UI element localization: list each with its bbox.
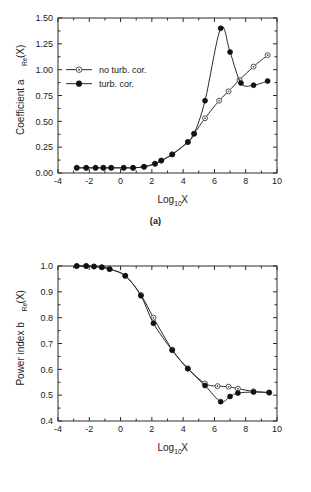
data-point-filled (101, 165, 106, 170)
x-tick-label: 8 (243, 176, 248, 186)
y-tick-label: 1.50 (35, 13, 53, 23)
x-tick-label: 4 (181, 424, 186, 434)
x-tick-label: 10 (272, 424, 282, 434)
series-curve-1 (77, 27, 268, 168)
x-axis-title-tail: X (181, 442, 188, 453)
data-point-filled (84, 264, 89, 269)
legend-open-circle-marker-center (78, 69, 80, 71)
y-tick-label: 0.7 (40, 339, 53, 349)
x-tick-label: 10 (272, 176, 282, 186)
data-point-filled (93, 165, 98, 170)
data-point-open-center (217, 385, 219, 387)
data-point-filled (152, 161, 157, 166)
y-tick-label: 0.25 (35, 142, 53, 152)
series-curve-0 (77, 266, 269, 393)
data-point-open-center (228, 386, 230, 388)
x-tick-label: 8 (243, 424, 248, 434)
plot-frame (58, 18, 277, 173)
data-point-filled (170, 152, 175, 157)
data-point-filled (99, 265, 104, 270)
data-point-filled (131, 165, 136, 170)
data-point-filled (218, 26, 223, 31)
data-point-filled (239, 81, 244, 86)
legend-label: no turb. cor. (99, 65, 147, 75)
panel-b: -4-202468100.40.50.60.70.80.91.0Log10XPo… (0, 246, 311, 492)
x-axis-title: Log (158, 194, 175, 205)
data-point-filled (123, 273, 128, 278)
y-tick-label: 0.4 (40, 416, 53, 426)
y-axis-title-group: Coefficient aRe(X) (15, 45, 28, 135)
y-tick-label: 1.25 (35, 39, 53, 49)
y-axis-title-group: Power index bRe(X) (15, 290, 28, 386)
series-curve-1 (77, 266, 269, 402)
y-tick-label: 0.6 (40, 365, 53, 375)
x-tick-label: -4 (54, 176, 62, 186)
data-point-filled (251, 390, 256, 395)
data-point-filled (91, 264, 96, 269)
y-tick-label: 1.0 (40, 261, 53, 271)
data-point-filled (74, 165, 79, 170)
data-point-filled (109, 165, 114, 170)
x-tick-label: 0 (118, 176, 123, 186)
y-tick-label: 0.00 (35, 168, 53, 178)
x-tick-label: 6 (212, 176, 217, 186)
x-tick-label: -2 (85, 424, 93, 434)
x-tick-label: 4 (181, 176, 186, 186)
data-point-filled (107, 267, 112, 272)
data-point-filled (203, 383, 208, 388)
data-point-filled (218, 399, 223, 404)
x-tick-label: 2 (149, 424, 154, 434)
y-axis-title-tail: (X) (15, 45, 26, 58)
y-axis-title: Power index b (15, 322, 26, 386)
data-point-open-center (153, 317, 155, 319)
data-point-filled (121, 165, 126, 170)
legend-label: turb. cor. (99, 79, 134, 89)
panel-a: -4-202468100.000.250.500.751.001.251.50L… (0, 0, 311, 246)
data-point-open-center (267, 54, 269, 56)
y-tick-label: 0.75 (35, 91, 53, 101)
y-tick-label: 1.00 (35, 65, 53, 75)
panel-a-caption: (a) (0, 216, 311, 226)
data-point-filled (192, 131, 197, 136)
panel-b-plot: -4-202468100.40.50.60.70.80.91.0Log10XPo… (0, 246, 311, 492)
legend-filled-circle-marker (76, 81, 82, 87)
y-tick-label: 0.50 (35, 117, 53, 127)
data-point-filled (267, 390, 272, 395)
y-tick-label: 0.8 (40, 313, 53, 323)
data-point-open-center (253, 66, 255, 68)
panel-a-plot: -4-202468100.000.250.500.751.001.251.50L… (0, 0, 311, 246)
data-point-open-center (228, 90, 230, 92)
data-point-filled (185, 366, 190, 371)
y-tick-label: 0.5 (40, 390, 53, 400)
x-tick-label: 0 (118, 424, 123, 434)
data-point-filled (265, 79, 270, 84)
data-point-open-center (237, 388, 239, 390)
data-point-filled (138, 293, 143, 298)
data-point-filled (159, 158, 164, 163)
data-point-filled (228, 50, 233, 55)
y-axis-title-tail: (X) (15, 290, 26, 303)
data-point-filled (185, 140, 190, 145)
data-point-filled (151, 321, 156, 326)
y-tick-label: 0.9 (40, 287, 53, 297)
data-point-open-center (218, 100, 220, 102)
data-point-open-center (204, 117, 206, 119)
x-tick-label: -4 (54, 424, 62, 434)
data-point-filled (170, 348, 175, 353)
data-point-filled (74, 264, 79, 269)
data-point-filled (203, 98, 208, 103)
x-tick-label: 2 (149, 176, 154, 186)
x-axis-title: Log (158, 442, 175, 453)
data-point-filled (84, 165, 89, 170)
data-point-filled (228, 394, 233, 399)
x-tick-label: 6 (212, 424, 217, 434)
data-point-filled (142, 164, 147, 169)
data-point-filled (235, 391, 240, 396)
y-axis-title: Coefficient a (15, 79, 26, 135)
data-point-filled (251, 83, 256, 88)
figure-container: -4-202468100.000.250.500.751.001.251.50L… (0, 0, 311, 492)
x-axis-title-tail: X (181, 194, 188, 205)
x-tick-label: -2 (85, 176, 93, 186)
